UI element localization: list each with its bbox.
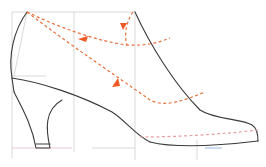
arrow-lower-icon (112, 78, 120, 87)
arrow-upper-icon (78, 36, 88, 42)
shoe-outline (11, 12, 258, 148)
lower-guide-arc (27, 12, 205, 103)
sole (150, 141, 258, 146)
sole-dashed-line (140, 130, 258, 137)
instep-drop-arc (126, 12, 133, 46)
vamp-topline (135, 12, 258, 141)
upper-guide-arc (27, 12, 170, 45)
shoe-pattern-diagram (0, 0, 266, 167)
heel (14, 92, 62, 148)
